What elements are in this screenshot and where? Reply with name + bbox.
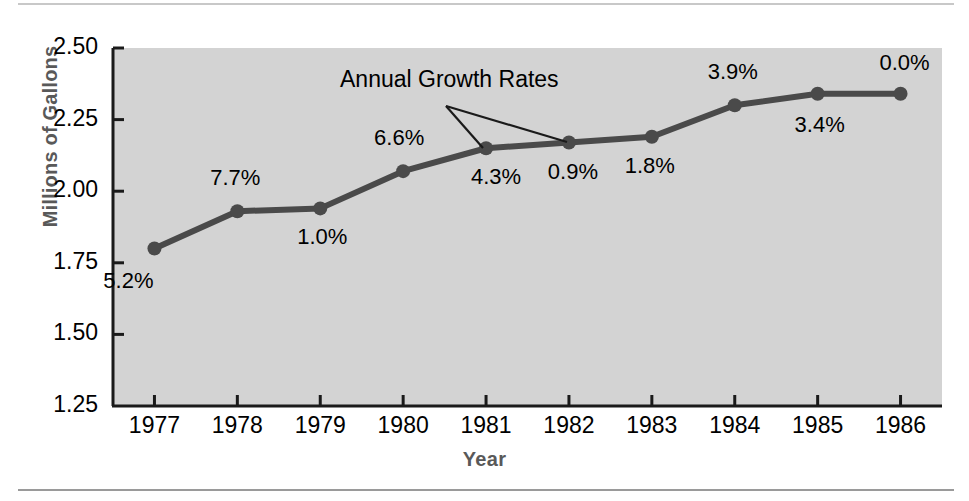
x-tick-label: 1986 [859, 412, 943, 439]
data-point-marker [396, 164, 410, 178]
y-tick-label: 2.00 [16, 176, 98, 203]
plot-area-background [113, 48, 942, 405]
growth-rate-label: 3.4% [780, 112, 860, 138]
growth-rate-label: 1.8% [610, 153, 690, 179]
x-tick-label: 1985 [776, 412, 860, 439]
x-tick-label: 1982 [527, 412, 611, 439]
x-tick-label: 1984 [693, 412, 777, 439]
chart-figure: Annual Growth Rates Millions of Gallons … [0, 0, 969, 501]
growth-rate-label: 0.9% [533, 159, 613, 185]
data-point-marker [562, 136, 576, 150]
growth-rate-label: 3.9% [693, 59, 773, 85]
x-tick-label: 1979 [278, 412, 362, 439]
data-point-marker [313, 201, 327, 215]
growth-rate-label: 0.0% [865, 50, 945, 76]
annual-growth-rates-annotation: Annual Growth Rates [340, 66, 559, 93]
data-point-marker [728, 98, 742, 112]
y-tick-label: 1.50 [16, 319, 98, 346]
y-tick-label: 1.25 [16, 391, 98, 418]
x-tick-label: 1978 [195, 412, 279, 439]
growth-rate-label: 1.0% [282, 224, 362, 250]
data-point-marker [894, 87, 908, 101]
growth-rate-label: 5.2% [88, 268, 168, 294]
data-point-marker [479, 141, 493, 155]
y-tick-label: 1.75 [16, 248, 98, 275]
data-point-marker [147, 241, 161, 255]
growth-rate-label: 6.6% [359, 125, 439, 151]
data-point-marker [230, 204, 244, 218]
x-tick-label: 1983 [610, 412, 694, 439]
data-point-marker [811, 87, 825, 101]
y-tick-label: 2.50 [16, 33, 98, 60]
x-tick-label: 1981 [444, 412, 528, 439]
y-tick-label: 2.25 [16, 105, 98, 132]
growth-rate-label: 4.3% [456, 164, 536, 190]
data-point-marker [645, 130, 659, 144]
x-tick-label: 1980 [361, 412, 445, 439]
x-tick-label: 1977 [112, 412, 196, 439]
x-axis-title: Year [0, 448, 969, 471]
growth-rate-label: 7.7% [195, 165, 275, 191]
